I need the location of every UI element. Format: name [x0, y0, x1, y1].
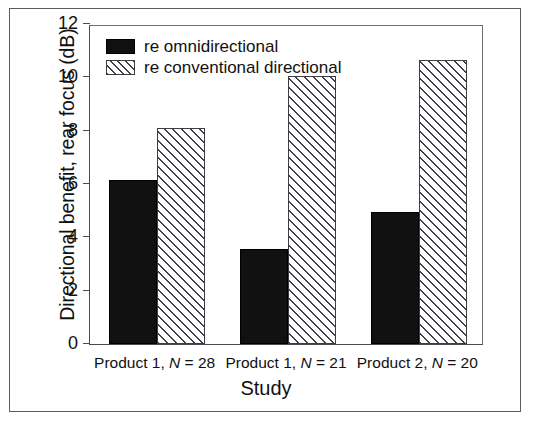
x-axis-category-label: Product 2, N = 20	[337, 354, 497, 372]
legend-swatch-diagonal-hatch-icon	[106, 60, 135, 75]
bar-re-conventional-directional	[157, 128, 205, 344]
chart-legend: re omnidirectional re conventional direc…	[106, 36, 342, 78]
legend-swatch-solid-black-icon	[106, 39, 135, 54]
bar-re-omnidirectional	[109, 180, 157, 344]
bar-re-conventional-directional	[288, 76, 336, 344]
bar-re-conventional-directional	[419, 60, 467, 344]
y-axis-tick: 0	[83, 343, 90, 344]
plot-area: 024681012 re omnidirectional re conventi…	[89, 25, 483, 345]
y-axis-tick: 6	[83, 183, 90, 184]
y-axis-tick: 12	[83, 23, 90, 24]
y-axis-tick-label: 6	[68, 173, 78, 194]
x-axis-title: Study	[10, 377, 522, 400]
legend-label-re-omnidirectional: re omnidirectional	[144, 37, 278, 57]
figure-frame: Directional benefit, rear focus (dB) 024…	[9, 8, 521, 412]
y-axis-tick-label: 12	[58, 13, 78, 34]
y-axis-tick: 2	[83, 290, 90, 291]
legend-item-re-conventional-directional: re conventional directional	[106, 57, 342, 78]
y-axis-tick-label: 2	[68, 280, 78, 301]
y-axis-tick: 10	[83, 76, 90, 77]
y-axis-tick: 4	[83, 236, 90, 237]
bar-re-omnidirectional	[240, 249, 288, 344]
y-axis-tick-label: 4	[68, 226, 78, 247]
y-axis-tick-label: 0	[68, 333, 78, 354]
legend-item-re-omnidirectional: re omnidirectional	[106, 36, 342, 57]
y-axis-tick: 8	[83, 130, 90, 131]
legend-label-re-conventional-directional: re conventional directional	[144, 58, 342, 78]
y-axis-tick-label: 10	[58, 66, 78, 87]
y-axis-tick-label: 8	[68, 120, 78, 141]
bar-re-omnidirectional	[371, 212, 419, 344]
